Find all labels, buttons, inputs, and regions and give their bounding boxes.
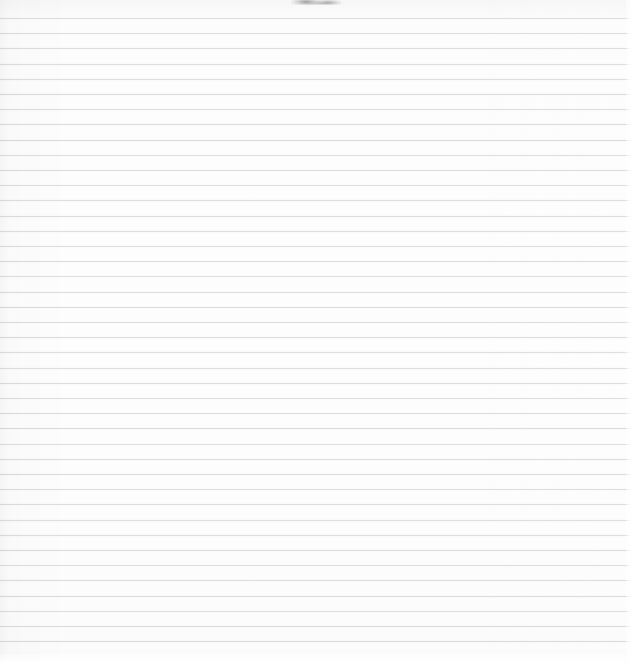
rule-line	[0, 79, 635, 80]
rule-line	[0, 109, 635, 110]
rule-line	[0, 307, 635, 308]
rule-line	[0, 124, 635, 125]
rule-line	[0, 18, 635, 19]
rule-line	[0, 246, 635, 247]
rule-line	[0, 261, 635, 262]
rule-line	[0, 596, 635, 597]
rule-line	[0, 428, 635, 429]
rule-line	[0, 398, 635, 399]
rule-line	[0, 276, 635, 277]
rule-line	[0, 368, 635, 369]
rule-line	[0, 48, 635, 49]
ruled-lines-group	[0, 0, 635, 666]
rule-line	[0, 474, 635, 475]
rule-line	[0, 185, 635, 186]
rule-line	[0, 33, 635, 34]
rule-line	[0, 641, 635, 642]
rule-line	[0, 520, 635, 521]
rule-line	[0, 216, 635, 217]
rule-line	[0, 611, 635, 612]
rule-line	[0, 580, 635, 581]
rule-line	[0, 565, 635, 566]
rule-line	[0, 292, 635, 293]
rule-line	[0, 64, 635, 65]
rule-line	[0, 94, 635, 95]
rule-line	[0, 444, 635, 445]
rule-line	[0, 200, 635, 201]
rule-line	[0, 155, 635, 156]
rule-line	[0, 383, 635, 384]
rule-line	[0, 459, 635, 460]
rule-line	[0, 535, 635, 536]
rule-line	[0, 413, 635, 414]
rule-line	[0, 489, 635, 490]
scanned-page	[0, 0, 635, 666]
rule-line	[0, 504, 635, 505]
rule-line	[0, 140, 635, 141]
rule-line	[0, 337, 635, 338]
rule-line	[0, 550, 635, 551]
rule-line	[0, 626, 635, 627]
rule-line	[0, 231, 635, 232]
rule-line	[0, 352, 635, 353]
rule-line	[0, 170, 635, 171]
rule-line	[0, 322, 635, 323]
